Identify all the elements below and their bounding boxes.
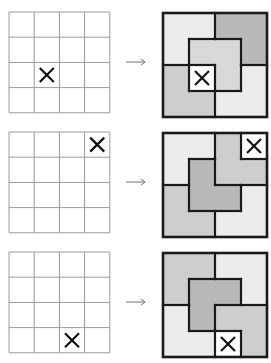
example-row-2	[0, 120, 271, 240]
tiled-board-3	[0, 240, 271, 360]
tiled-board-2	[0, 120, 271, 240]
example-row-1	[0, 0, 271, 120]
example-row-3	[0, 240, 271, 360]
tiled-board-1	[0, 0, 271, 120]
